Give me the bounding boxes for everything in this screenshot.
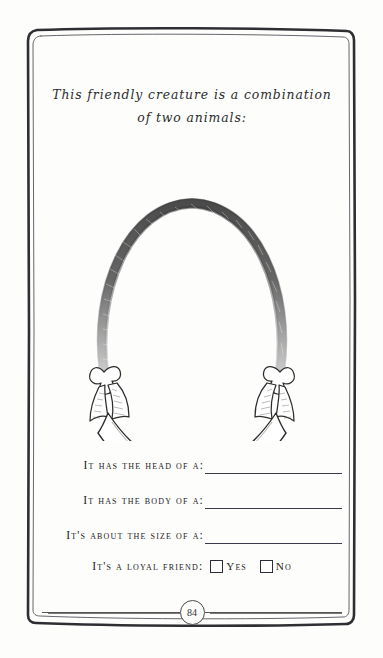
prompt-label-size: It's about the size of a: xyxy=(66,529,204,544)
checkbox-yes-label: Yes xyxy=(226,560,247,572)
prompt-list: It has the head of a: It has the body of… xyxy=(42,444,342,581)
checkbox-yes[interactable] xyxy=(210,560,223,573)
checkbox-no-label: No xyxy=(276,560,292,572)
left-ribbon-bow xyxy=(90,367,129,421)
wreath-band xyxy=(98,199,286,375)
title-line-1: This friendly creature is a combination xyxy=(42,84,342,107)
blank-banner xyxy=(98,413,286,441)
prompt-blank-size[interactable] xyxy=(205,530,342,544)
prompt-blank-head[interactable] xyxy=(205,460,342,474)
checkbox-no[interactable] xyxy=(260,560,273,573)
prompt-label-head: It has the head of a: xyxy=(84,459,204,474)
wreath-hatching xyxy=(103,204,283,360)
prompt-row-body: It has the body of a: xyxy=(42,479,342,509)
prompt-blank-body[interactable] xyxy=(205,495,342,509)
prompt-row-size: It's about the size of a: xyxy=(42,514,342,544)
footer-rule-left xyxy=(42,611,180,614)
page-title: This friendly creature is a combination … xyxy=(42,84,342,130)
prompt-row-head: It has the head of a: xyxy=(42,444,342,474)
right-ribbon-bow xyxy=(255,367,294,421)
prompt-label-body: It has the body of a: xyxy=(83,494,204,509)
title-line-2: of two animals: xyxy=(42,107,342,130)
page-content: This friendly creature is a combination … xyxy=(42,46,342,616)
oval-garland-frame-icon xyxy=(42,141,342,441)
loyal-friend-row: It's a loyal friend: Yes No xyxy=(42,551,342,581)
page-number: 84 xyxy=(180,600,205,625)
page-footer: 84 xyxy=(42,596,342,628)
loyal-friend-label: It's a loyal friend: xyxy=(92,560,203,573)
worksheet-page: This friendly creature is a combination … xyxy=(0,0,383,658)
footer-rule-right xyxy=(205,611,343,614)
